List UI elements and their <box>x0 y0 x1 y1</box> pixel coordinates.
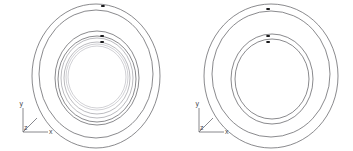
right-axis-triad: y x z <box>196 100 230 135</box>
left-vertex-mid-top[interactable] <box>100 35 103 37</box>
cad-viewport[interactable]: y x z y x z <box>0 0 353 151</box>
left-bore-ring-inner <box>68 46 126 108</box>
right-axis-x-label: x <box>225 128 229 135</box>
right-bore-ring-inner <box>235 39 309 119</box>
left-cage-ring-outer <box>61 38 133 118</box>
left-mid-ring-inner <box>58 36 136 122</box>
right-vertex-inner-top[interactable] <box>266 41 269 43</box>
right-vertex-bore-top[interactable] <box>266 35 269 37</box>
right-bore-ring-outer <box>231 34 313 124</box>
right-axis-z-label: z <box>200 124 204 131</box>
right-axis-y-label: y <box>196 100 200 108</box>
left-vertex-cage-top[interactable] <box>100 41 103 43</box>
left-outer-rim <box>32 4 160 148</box>
left-bore-ring-outer <box>66 44 128 110</box>
left-mid-ring-outer <box>55 31 139 125</box>
left-vertex-outer-top[interactable] <box>101 5 104 7</box>
drawing-canvas[interactable]: y x z y x z <box>0 0 353 151</box>
right-outer-rim <box>204 4 338 148</box>
right-outer-rim-inner-edge <box>212 11 330 137</box>
left-cage-ring-inner <box>64 42 130 114</box>
left-assembly[interactable]: y x z <box>20 4 161 148</box>
left-axis-y-label: y <box>20 100 24 108</box>
left-axis-z-label: z <box>24 124 28 131</box>
left-axis-triad: y x z <box>20 100 54 135</box>
right-assembly[interactable]: y x z <box>196 4 339 148</box>
right-vertex-outer-top[interactable] <box>266 8 269 10</box>
left-axis-x-label: x <box>49 128 53 135</box>
